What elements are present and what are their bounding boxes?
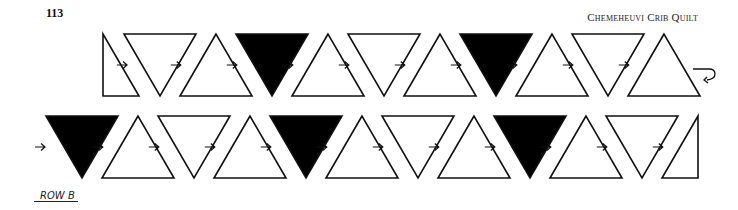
- quilt-piecing-diagram: [0, 0, 738, 210]
- lead-arrow-icon: [35, 144, 45, 151]
- return-arrow-icon: [693, 69, 715, 83]
- row-label: ROW B: [34, 190, 78, 202]
